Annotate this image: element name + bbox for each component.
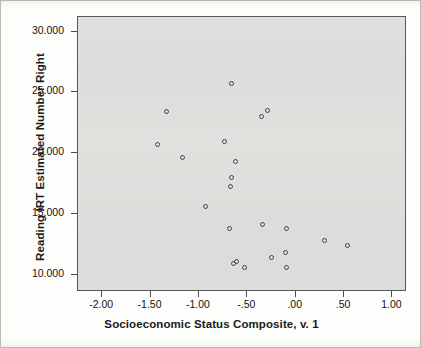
data-point	[227, 226, 232, 231]
data-point	[260, 222, 265, 227]
y-axis-tick	[71, 274, 77, 275]
y-axis-tick-label: 15.000	[0, 206, 64, 218]
data-point	[155, 142, 160, 147]
scatter-plot-figure: Reading IRT Estimated Number Right 10.00…	[0, 0, 421, 348]
x-axis-tick	[198, 291, 199, 297]
data-point	[229, 175, 234, 180]
y-axis-tick-label: 30.000	[0, 24, 64, 36]
plot-area-shading	[78, 17, 405, 290]
x-axis-tick	[101, 291, 102, 297]
data-point	[234, 259, 239, 264]
x-axis-tick-label: 1.00	[363, 298, 419, 310]
data-point	[222, 139, 227, 144]
y-axis-tick	[71, 152, 77, 153]
y-axis-tick-label: 25.000	[0, 84, 64, 96]
data-point	[259, 114, 264, 119]
x-axis-tick	[391, 291, 392, 297]
data-point	[180, 155, 185, 160]
x-axis-tick	[343, 291, 344, 297]
x-axis-tick	[295, 291, 296, 297]
data-point	[164, 109, 169, 114]
data-point	[265, 108, 270, 113]
data-point	[228, 184, 233, 189]
data-point	[322, 238, 327, 243]
data-point	[284, 265, 289, 270]
y-axis-tick-label: 10.000	[0, 267, 64, 279]
plot-area	[77, 16, 406, 291]
data-point	[269, 255, 274, 260]
data-point	[203, 204, 208, 209]
y-axis-tick	[71, 91, 77, 92]
y-axis-tick	[71, 31, 77, 32]
data-point	[345, 243, 350, 248]
x-axis-tick	[246, 291, 247, 297]
data-point	[242, 265, 247, 270]
y-axis-tick	[71, 213, 77, 214]
x-axis-tick	[150, 291, 151, 297]
y-axis-tick-label: 20.000	[0, 145, 64, 157]
data-point	[229, 81, 234, 86]
x-axis-title: Socioeconomic Status Composite, v. 1	[1, 318, 421, 330]
data-point	[284, 226, 289, 231]
data-point	[233, 159, 238, 164]
data-point	[283, 250, 288, 255]
